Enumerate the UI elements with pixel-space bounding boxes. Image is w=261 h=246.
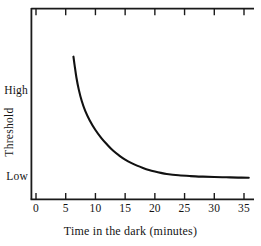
- chart-figure: High Low Threshold 05101520253035 Time i…: [0, 0, 261, 246]
- x-axis-tick-label: 15: [112, 202, 138, 214]
- x-axis-tick-label: 20: [142, 202, 168, 214]
- x-axis-tick-label: 5: [53, 202, 79, 214]
- threshold-curve: [73, 57, 248, 178]
- x-axis-ticks: [36, 193, 244, 199]
- x-axis-tick-label: 10: [82, 202, 108, 214]
- y-axis-title: Threshold: [3, 101, 15, 163]
- x-axis-title: Time in the dark (minutes): [0, 224, 261, 238]
- y-axis-label-high: High: [0, 84, 28, 96]
- x-axis-tick-label: 30: [201, 202, 227, 214]
- x-axis-tick-label: 35: [231, 202, 257, 214]
- y-axis-label-low: Low: [0, 170, 28, 182]
- top-axis-ticks: [36, 9, 244, 16]
- x-axis-tick-label: 25: [172, 202, 198, 214]
- x-axis-tick-label: 0: [23, 202, 49, 214]
